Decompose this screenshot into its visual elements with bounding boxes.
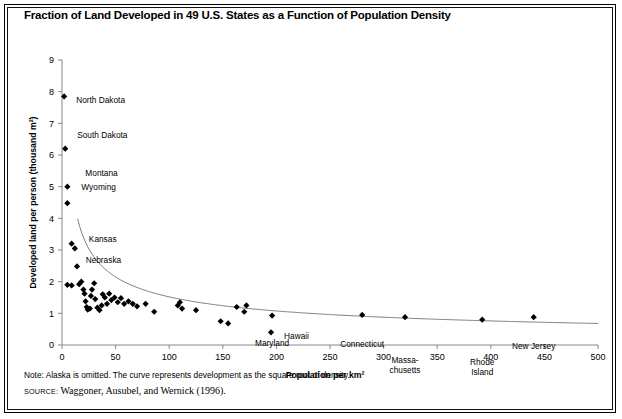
- data-point-marker: [359, 312, 365, 318]
- data-point-marker: [74, 263, 80, 269]
- scatter-chart: 0123456789050100150200250300350400450500…: [0, 0, 622, 419]
- data-point-marker: [62, 146, 68, 152]
- y-axis-tick-label: 1: [49, 309, 54, 319]
- x-axis-tick-label: 100: [162, 352, 177, 362]
- y-axis-tick-label: 6: [49, 150, 54, 160]
- data-point-label: Nebraska: [86, 255, 122, 265]
- x-axis-tick-label: 150: [215, 352, 230, 362]
- data-points-group: North DakotaSouth DakotaMontanaWyomingNe…: [61, 93, 556, 377]
- x-axis-tick-label: 300: [376, 352, 391, 362]
- x-axis-tick-label: 250: [322, 352, 337, 362]
- x-axis-tick-label: 200: [269, 352, 284, 362]
- data-point-label: North Dakota: [76, 95, 125, 105]
- data-point-label: Connecticut: [340, 339, 385, 349]
- y-axis-tick-label: 8: [49, 87, 54, 97]
- data-point-label: Kansas: [89, 234, 117, 244]
- data-point-marker: [64, 200, 70, 206]
- y-axis-tick-label: 0: [49, 340, 54, 350]
- x-axis-tick-label: 0: [59, 352, 64, 362]
- data-point-label: Montana: [85, 168, 118, 178]
- data-point-marker: [479, 317, 485, 323]
- y-axis-tick-label: 9: [49, 55, 54, 65]
- data-point-marker: [402, 314, 408, 320]
- data-point-label: Island: [471, 367, 494, 377]
- data-point-label: Massa-: [391, 355, 418, 365]
- source-prefix-label: SOURCE:: [24, 387, 58, 396]
- data-point-marker: [69, 282, 75, 288]
- y-axis-tick-label: 5: [49, 182, 54, 192]
- data-point-label: South Dakota: [77, 130, 128, 140]
- data-point-marker: [269, 312, 275, 318]
- data-point-marker: [104, 301, 110, 307]
- data-point-marker: [106, 291, 112, 297]
- chart-note: Note: Alaska is omitted. The curve repre…: [24, 370, 350, 380]
- data-point-marker: [88, 293, 94, 299]
- y-axis-tick-label: 7: [49, 119, 54, 129]
- chart-source: SOURCE: Waggoner, Ausubel, and Wernick (…: [24, 385, 226, 396]
- data-point-marker: [143, 301, 149, 307]
- data-point-marker: [218, 318, 224, 324]
- data-point-marker: [82, 298, 88, 304]
- data-point-marker: [69, 241, 75, 247]
- data-point-marker: [92, 296, 98, 302]
- data-point-label: Wyoming: [81, 182, 116, 192]
- data-point-marker: [89, 286, 95, 292]
- x-axis-tick-label: 50: [111, 352, 121, 362]
- x-axis-tick-label: 350: [430, 352, 445, 362]
- data-point-marker: [151, 309, 157, 315]
- data-point-marker: [179, 305, 185, 311]
- y-axis-tick-label: 2: [49, 277, 54, 287]
- data-point-marker: [225, 320, 231, 326]
- x-axis-tick-label: 450: [537, 352, 552, 362]
- data-point-marker: [268, 329, 274, 335]
- data-point-marker: [72, 245, 78, 251]
- data-point-label: New Jersey: [512, 341, 556, 351]
- source-citation-text: Waggoner, Ausubel, and Wernick (1996).: [60, 385, 225, 396]
- y-axis-title: Developed land per person (thousand m²): [28, 116, 38, 288]
- x-axis-tick-label: 500: [590, 352, 605, 362]
- data-point-marker: [64, 184, 70, 190]
- fit-curve: [78, 219, 598, 324]
- data-point-marker: [193, 307, 199, 313]
- data-point-marker: [241, 309, 247, 315]
- data-point-label: Rhode: [470, 357, 495, 367]
- y-axis-tick-label: 3: [49, 245, 54, 255]
- data-point-marker: [531, 314, 537, 320]
- data-point-marker: [234, 304, 240, 310]
- y-axis-tick-label: 4: [49, 214, 54, 224]
- data-point-label: Maryland: [255, 338, 290, 348]
- data-point-label: chusetts: [390, 365, 421, 375]
- data-point-marker: [91, 280, 97, 286]
